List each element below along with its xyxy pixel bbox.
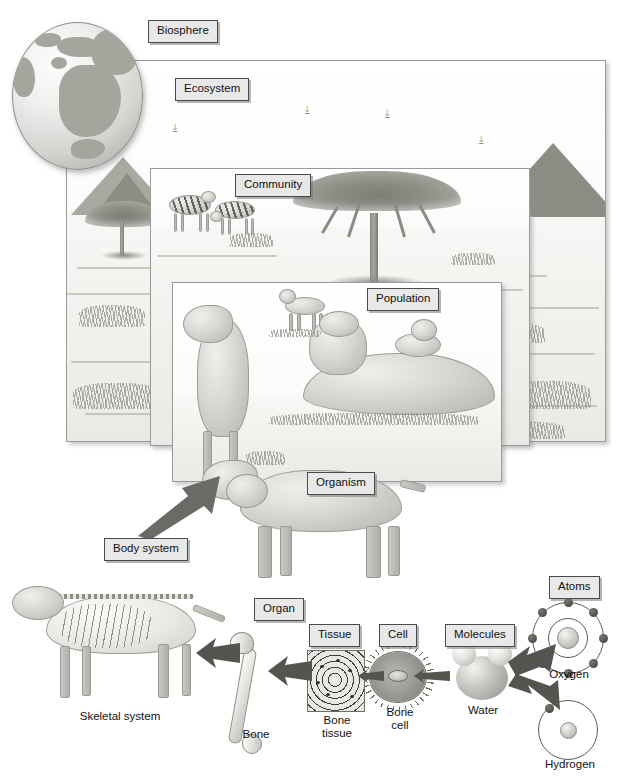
bird-icon: ⤓ bbox=[385, 109, 389, 119]
zebra-leg bbox=[221, 218, 224, 235]
lion-cub-right bbox=[391, 317, 447, 363]
arrow-body-system-to-organism bbox=[136, 470, 232, 540]
caption-skeletal-system: Skeletal system bbox=[60, 710, 180, 723]
lioness-hindleg bbox=[366, 526, 381, 578]
skeleton-spine bbox=[52, 594, 194, 599]
electron bbox=[599, 634, 608, 643]
label-organ[interactable]: Organ bbox=[254, 598, 304, 621]
arrow-organ-to-body-system bbox=[196, 636, 240, 670]
terrain-streak bbox=[67, 293, 153, 295]
bird-icon: ⤓ bbox=[479, 135, 483, 145]
skeleton-skull bbox=[12, 586, 64, 620]
lion-head bbox=[319, 311, 359, 337]
grass-tuft bbox=[73, 383, 161, 409]
lioness-neck bbox=[226, 474, 268, 508]
electron bbox=[538, 608, 547, 617]
arrow-cell-to-tissue bbox=[358, 668, 384, 684]
label-community[interactable]: Community bbox=[235, 174, 311, 197]
electron bbox=[564, 598, 573, 607]
arrow-molecules-to-cell bbox=[414, 668, 450, 684]
grass-tuft bbox=[269, 329, 321, 337]
acacia-trunk-left bbox=[120, 221, 124, 255]
osteocyte bbox=[316, 681, 320, 684]
arrow-tissue-to-organ bbox=[268, 654, 312, 688]
terrain-streak bbox=[157, 255, 277, 257]
globe-biosphere bbox=[12, 22, 143, 170]
oxygen-nucleus bbox=[557, 627, 579, 649]
osteocyte bbox=[326, 693, 330, 696]
caption-hydrogen: Hydrogen bbox=[530, 758, 610, 771]
lioness-foreleg bbox=[280, 526, 292, 576]
landmass-south-africa bbox=[71, 139, 105, 159]
skeleton-hindleg bbox=[182, 644, 191, 696]
cub-head bbox=[411, 319, 437, 341]
label-cell[interactable]: Cell bbox=[379, 624, 417, 647]
landmass-south-america bbox=[13, 57, 35, 97]
bird-icon: ⤓ bbox=[173, 123, 177, 133]
grass-tuft bbox=[79, 305, 145, 327]
skeleton-hindleg bbox=[158, 644, 169, 698]
skeleton-foreleg bbox=[82, 646, 91, 696]
electron bbox=[589, 659, 598, 668]
grass-tuft bbox=[229, 233, 273, 247]
lioness-hindleg bbox=[388, 526, 400, 576]
landmass-greenland bbox=[35, 33, 61, 47]
landmass-iberia bbox=[51, 57, 67, 69]
caption-water: Water bbox=[452, 704, 514, 717]
hydrogen-nucleus bbox=[560, 722, 577, 739]
caption-bone-cell: Bone cell bbox=[368, 706, 432, 732]
label-atoms[interactable]: Atoms bbox=[549, 576, 600, 599]
caption-bone: Bone bbox=[226, 728, 286, 741]
grass-tuft bbox=[451, 253, 495, 265]
label-body-system[interactable]: Body system bbox=[104, 538, 188, 561]
label-molecules[interactable]: Molecules bbox=[445, 624, 515, 647]
lioness-foreleg bbox=[258, 526, 272, 578]
osteocyte bbox=[348, 669, 352, 672]
zebra-leg bbox=[174, 213, 177, 232]
osteocyte bbox=[336, 659, 340, 662]
skeleton-ribs bbox=[60, 604, 152, 648]
lioness-tail bbox=[399, 479, 426, 493]
label-ecosystem[interactable]: Ecosystem bbox=[175, 78, 249, 101]
caption-bone-tissue: Bone tissue bbox=[302, 714, 372, 740]
landmass-africa bbox=[59, 65, 121, 137]
skeleton-tail bbox=[192, 604, 226, 623]
skeleton-foreleg bbox=[60, 646, 70, 698]
osteocyte bbox=[320, 665, 324, 668]
tree-shadow-left bbox=[101, 251, 147, 260]
label-population[interactable]: Population bbox=[367, 288, 439, 311]
lioness-head bbox=[183, 305, 233, 343]
cub-head bbox=[279, 289, 296, 304]
osteocyte bbox=[350, 695, 354, 698]
zebra-leg bbox=[181, 213, 184, 232]
caption-oxygen: Oxygen bbox=[534, 668, 604, 681]
diagram-canvas: ⤓ ⤓ ⤓ ⤓ bbox=[0, 0, 623, 779]
label-tissue[interactable]: Tissue bbox=[309, 624, 360, 647]
electron bbox=[589, 608, 598, 617]
bone-tissue-micrograph bbox=[307, 650, 365, 712]
label-organism[interactable]: Organism bbox=[307, 472, 375, 495]
zebra-leg bbox=[199, 213, 202, 232]
bird-icon: ⤓ bbox=[305, 105, 309, 115]
label-biosphere[interactable]: Biosphere bbox=[148, 20, 218, 43]
zebra-leg bbox=[228, 218, 231, 235]
grass-tuft bbox=[269, 413, 479, 425]
